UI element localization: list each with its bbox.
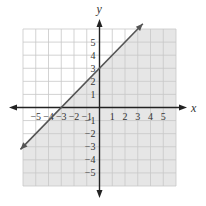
- x-tick-label: 3: [135, 111, 140, 122]
- x-tick-label: −2: [69, 111, 80, 122]
- y-tick-label: −2: [85, 128, 96, 139]
- y-tick-label: −5: [85, 167, 96, 178]
- x-tick-label: 1: [110, 111, 115, 122]
- y-tick-label: −1: [85, 115, 96, 126]
- y-tick-label: 4: [91, 50, 96, 61]
- inequality-graph: x y −5−4−3−2−112345−5−4−3−2−112345: [0, 0, 206, 206]
- y-tick-label: 5: [91, 37, 96, 48]
- y-tick-label: 1: [91, 89, 96, 100]
- x-tick-label: 4: [148, 111, 153, 122]
- x-tick-label: 5: [161, 111, 166, 122]
- x-tick-label: −5: [30, 111, 41, 122]
- y-axis-up-arrow-icon: [97, 19, 103, 27]
- x-axis-right-arrow-icon: [179, 105, 187, 111]
- y-tick-label: −4: [85, 154, 96, 165]
- y-axis-down-arrow-icon: [97, 190, 103, 198]
- x-tick-label: 2: [123, 111, 128, 122]
- x-axis-label: x: [190, 101, 197, 115]
- y-axis-label: y: [96, 2, 103, 16]
- y-tick-label: −3: [85, 141, 96, 152]
- x-axis-left-arrow-icon: [9, 105, 17, 111]
